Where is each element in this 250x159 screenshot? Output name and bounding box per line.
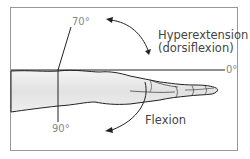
forearm-shape — [11, 70, 218, 112]
dorsiflexion-subtitle: (dorsiflexion) — [158, 42, 248, 55]
hyperextension-label: Hyperextension (dorsiflexion) — [158, 29, 248, 55]
angle-0-label: 0° — [226, 64, 237, 75]
hyperextension-arrow — [110, 20, 148, 50]
seventy-degree-line — [58, 27, 71, 70]
wrist-range-of-motion-illustration — [0, 0, 250, 159]
angle-90-label: 90° — [52, 123, 70, 134]
flexion-label: Flexion — [145, 114, 186, 127]
angle-70-label: 70° — [72, 16, 90, 27]
